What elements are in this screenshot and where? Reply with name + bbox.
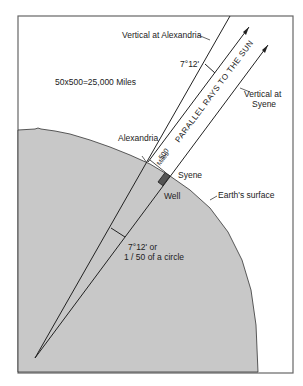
label-earths-surface: Earth's surface <box>218 190 275 200</box>
label-vertical-syene-1: Vertical at <box>244 89 282 99</box>
label-alexandria: Alexandria <box>118 133 158 143</box>
label-well: Well <box>164 191 180 201</box>
label-angle-top: 7°12' <box>180 59 200 69</box>
label-vertical-syene-2: Syene <box>252 99 276 109</box>
label-angle-center-2: 1 / 50 of a circle <box>124 252 184 262</box>
label-formula: 50x500=25,000 Miles <box>55 77 136 87</box>
label-vertical-alexandria: Vertical at Alexandria <box>122 30 202 40</box>
label-angle-center-1: 7°12' or <box>128 242 157 252</box>
eratosthenes-diagram: Vertical at Alexandria 7°12' 50x500=25,0… <box>0 0 303 386</box>
label-syene: Syene <box>178 170 202 180</box>
